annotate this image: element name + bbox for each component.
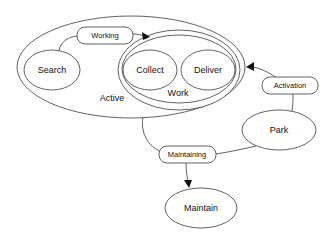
state-active-label: Active <box>100 93 125 103</box>
state-maintain-label: Maintain <box>184 203 218 213</box>
state-search[interactable]: Search <box>24 50 80 90</box>
state-diagram: Active Work Search Collect Deliver Park … <box>0 0 334 239</box>
arrowhead-icon <box>246 62 254 71</box>
transition-maintaining[interactable]: Maintaining <box>142 117 256 188</box>
transition-maintaining-label: Maintaining <box>168 150 206 159</box>
edge-park-to-maintaining <box>216 146 256 154</box>
state-collect-label: Collect <box>136 65 164 75</box>
transition-activation-label: Activation <box>274 81 307 90</box>
edge-active-to-maintaining <box>142 117 160 151</box>
edge-activation-to-active <box>252 67 277 78</box>
state-collect[interactable]: Collect <box>123 50 177 90</box>
transition-working-label: Working <box>91 31 118 40</box>
state-park[interactable]: Park <box>242 110 316 150</box>
state-deliver[interactable]: Deliver <box>181 50 235 90</box>
state-search-label: Search <box>38 65 67 75</box>
state-work-label: Work <box>168 88 189 98</box>
edge-maintaining-to-maintain <box>186 163 188 182</box>
state-deliver-label: Deliver <box>194 65 222 75</box>
edge-park-to-activation <box>292 94 293 111</box>
transition-activation[interactable]: Activation <box>246 62 318 111</box>
state-maintain[interactable]: Maintain <box>165 188 237 228</box>
arrowhead-icon <box>184 180 192 188</box>
state-park-label: Park <box>270 125 289 135</box>
